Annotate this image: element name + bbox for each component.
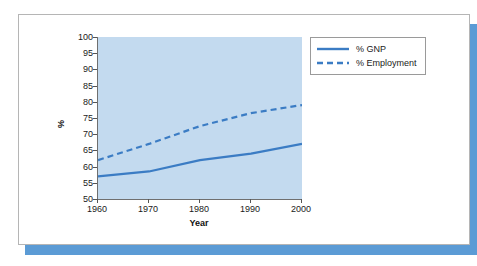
y-axis-tick-label: 80 [67,97,93,106]
legend-swatch-solid-icon [316,44,350,54]
chart-card: % 10095908580757065605550 19601970198019… [18,14,470,245]
y-axis-tick-label: 75 [67,114,93,123]
y-axis-tick-label: 55 [67,178,93,187]
legend-item-gnp[interactable]: % GNP [316,42,417,56]
legend-item-employment[interactable]: % Employment [316,56,417,70]
series-canvas [98,37,302,199]
x-axis-tick-mark [97,199,98,203]
x-axis-tick-mark [148,199,149,203]
x-axis-tick-mark [199,199,200,203]
y-axis-tick-label: 70 [67,130,93,139]
legend-label-gnp: % GNP [356,44,386,54]
x-axis-tick-mark [250,199,251,203]
series-line-gnp [98,144,302,176]
y-axis-tick-label: 50 [67,195,93,204]
plot-area [97,37,302,200]
y-axis-tick-label: 95 [67,49,93,58]
y-axis-tick-label: 85 [67,81,93,90]
chart-figure: % 10095908580757065605550 19601970198019… [19,15,471,246]
x-axis-tick-label: 1990 [230,204,270,214]
y-axis-tick-label: 60 [67,162,93,171]
y-axis-tick-label: 90 [67,65,93,74]
x-axis-title: Year [97,218,301,228]
y-axis-tick-label: 100 [67,33,93,42]
x-axis-tick-label: 2000 [281,204,321,214]
y-axis-tick-label: 65 [67,146,93,155]
x-axis-tick-label: 1980 [179,204,219,214]
x-axis-tick-mark [301,199,302,203]
screenshot-stage: % 10095908580757065605550 19601970198019… [0,0,477,266]
x-axis-tick-labels: 19601970198019902000 [97,204,302,218]
legend-label-employment: % Employment [356,58,417,68]
legend-swatch-dashed-icon [316,58,350,68]
x-axis-tick-label: 1970 [128,204,168,214]
series-line-employment [98,105,302,160]
chart-legend[interactable]: % GNP % Employment [310,37,426,75]
x-axis-tick-label: 1960 [77,204,117,214]
